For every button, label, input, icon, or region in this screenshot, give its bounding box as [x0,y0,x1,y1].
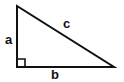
right-triangle-diagram: a b c [0,0,124,82]
side-label-c: c [63,17,70,30]
side-label-b: b [51,68,59,81]
side-label-a: a [5,33,12,46]
right-angle-marker [17,59,25,67]
triangle-graphic [0,0,124,82]
